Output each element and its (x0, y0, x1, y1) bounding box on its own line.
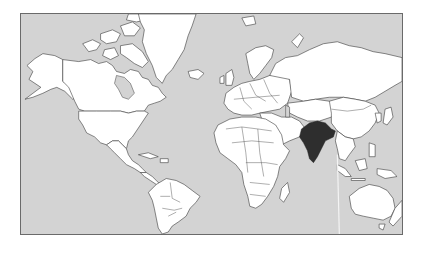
novaya-zemlya (292, 34, 304, 48)
canada (63, 60, 166, 114)
central-america (140, 173, 160, 185)
arctic-archipelago-4 (103, 48, 119, 60)
arctic-archipelago-1 (83, 40, 101, 52)
ireland (220, 75, 224, 83)
borneo (355, 159, 367, 171)
japan (383, 107, 393, 125)
india-highlighted (300, 121, 336, 163)
hispaniola (160, 159, 168, 163)
australia (349, 184, 395, 220)
sumatra (337, 165, 351, 177)
world-map: India (20, 13, 403, 235)
scandinavia (246, 46, 274, 80)
iceland (188, 69, 204, 79)
arctic-archipelago-3 (120, 22, 140, 36)
java (351, 179, 365, 181)
new-guinea (377, 169, 397, 179)
caspian-sea (286, 105, 290, 117)
svalbard (242, 16, 256, 26)
madagascar (280, 182, 290, 202)
arctic-archipelago-2 (101, 30, 121, 44)
europe-mainland (224, 75, 292, 115)
tasmania (379, 224, 385, 230)
south-america (148, 179, 200, 234)
britain (226, 69, 234, 85)
philippines (369, 143, 375, 157)
greenland (138, 14, 196, 83)
map-canvas (21, 14, 402, 234)
cuba (138, 153, 158, 159)
